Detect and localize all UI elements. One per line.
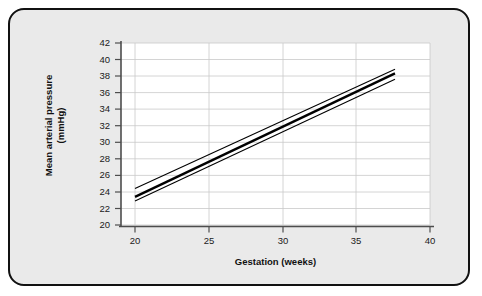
x-tick-label: 20 [123, 236, 147, 246]
y-axis-title-line1: Mean arterial pressure [43, 26, 55, 226]
chart-area: 20 22 24 26 28 30 32 34 36 38 40 42 20 2… [10, 10, 472, 288]
x-tick-label: 30 [271, 236, 295, 246]
x-tick-label: 40 [418, 236, 442, 246]
y-tick-label: 34 [88, 104, 110, 114]
y-tick-label: 20 [88, 220, 110, 230]
y-axis-title: Mean arterial pressure (mmHg) [43, 26, 66, 226]
x-tick-label: 35 [344, 236, 368, 246]
y-tick-label: 42 [88, 38, 110, 48]
y-tick-label: 24 [88, 187, 110, 197]
x-tick-label: 25 [197, 236, 221, 246]
y-tick-label: 26 [88, 170, 110, 180]
y-tick-label: 36 [88, 88, 110, 98]
y-tick-marks [115, 43, 121, 225]
y-tick-label: 22 [88, 204, 110, 214]
horizontal-gridlines [121, 43, 430, 225]
x-axis-title: Gestation (weeks) [121, 256, 430, 267]
y-axis-title-line2: (mmHg) [54, 26, 66, 226]
plot-canvas [10, 10, 472, 288]
y-tick-label: 32 [88, 121, 110, 131]
vertical-gridlines [135, 43, 430, 225]
y-tick-label: 38 [88, 71, 110, 81]
x-tick-marks [135, 227, 430, 233]
y-tick-label: 28 [88, 154, 110, 164]
y-tick-label: 40 [88, 55, 110, 65]
y-tick-label: 30 [88, 137, 110, 147]
figure-frame: 20 22 24 26 28 30 32 34 36 38 40 42 20 2… [8, 8, 470, 286]
